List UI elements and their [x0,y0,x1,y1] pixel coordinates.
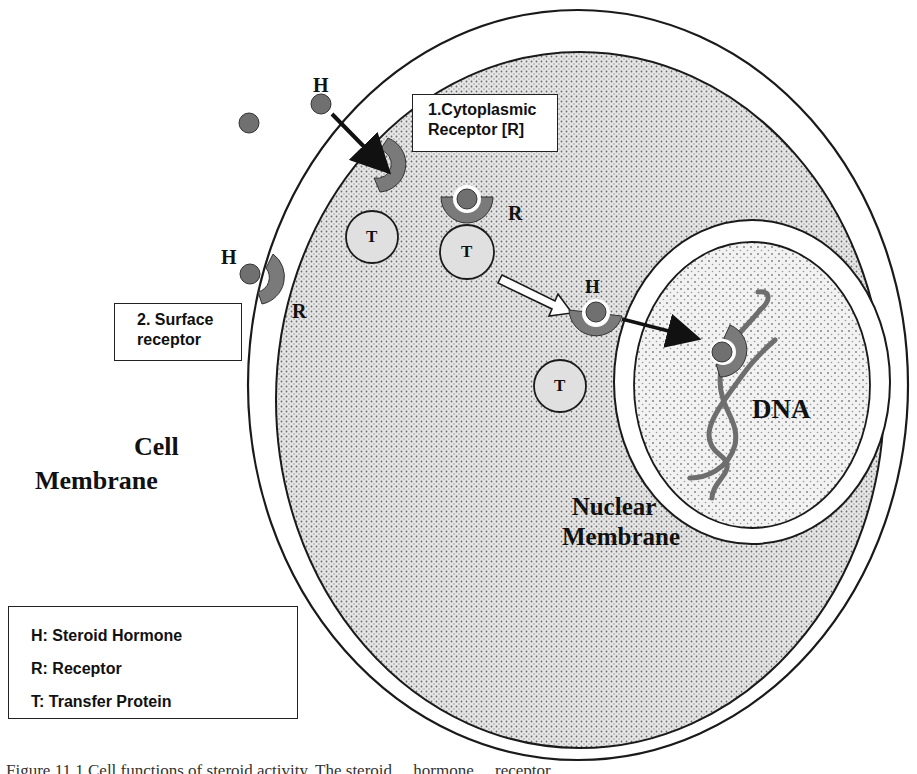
cell-membrane-label-line1: Cell [134,430,179,464]
hr-complex-hormone-icon [586,302,606,322]
nuclear-membrane-label-line1: Nuclear [548,492,680,522]
nucleus-interior [634,242,870,528]
transfer-protein-label-1: T [366,227,377,247]
hormone-label-complex: H [585,276,600,298]
cell-membrane-label: Cell Membrane [134,430,179,498]
cytoplasmic-receptor-callout: 1.Cytoplasmic Receptor [R] [412,94,558,152]
legend: H: Steroid Hormone R: Receptor T: Transf… [8,606,298,719]
hormone-label-surface: H [221,246,237,269]
nuclear-membrane-label: Nuclear Membrane [548,492,680,552]
cytoplasmic-receptor-line2: Receptor [R] [428,120,557,140]
surface-receptor-line2: receptor [137,330,241,350]
legend-item-transfer-protein: T: Transfer Protein [31,693,171,711]
receptor-label-cyto: R [508,202,522,225]
hormone-surface-icon [240,264,260,284]
surface-receptor-callout: 2. Surface receptor [114,303,242,361]
transfer-protein-label-2: T [461,242,472,262]
receptor-label-surface: R [292,300,306,323]
surface-receptor-line1: 2. Surface [137,310,241,330]
legend-item-hormone: H: Steroid Hormone [31,627,182,645]
hormone-label-top: H [313,74,329,97]
dna-label: DNA [752,394,811,425]
hormone-entering-icon [311,94,331,114]
cytoplasmic-receptor-line1: 1.Cytoplasmic [428,100,557,120]
nuclear-membrane-label-line2: Membrane [562,522,680,552]
hormone-free-icon [239,113,259,133]
hormone-bound-icon [457,189,477,209]
figure-caption: Figure 11.1 Cell functions of steroid ac… [6,758,911,774]
transfer-protein-label-3: T [554,376,565,396]
cell-membrane-label-line2: Membrane [14,464,179,498]
legend-item-receptor: R: Receptor [31,660,122,678]
dna-bound-hormone-icon [712,342,732,362]
